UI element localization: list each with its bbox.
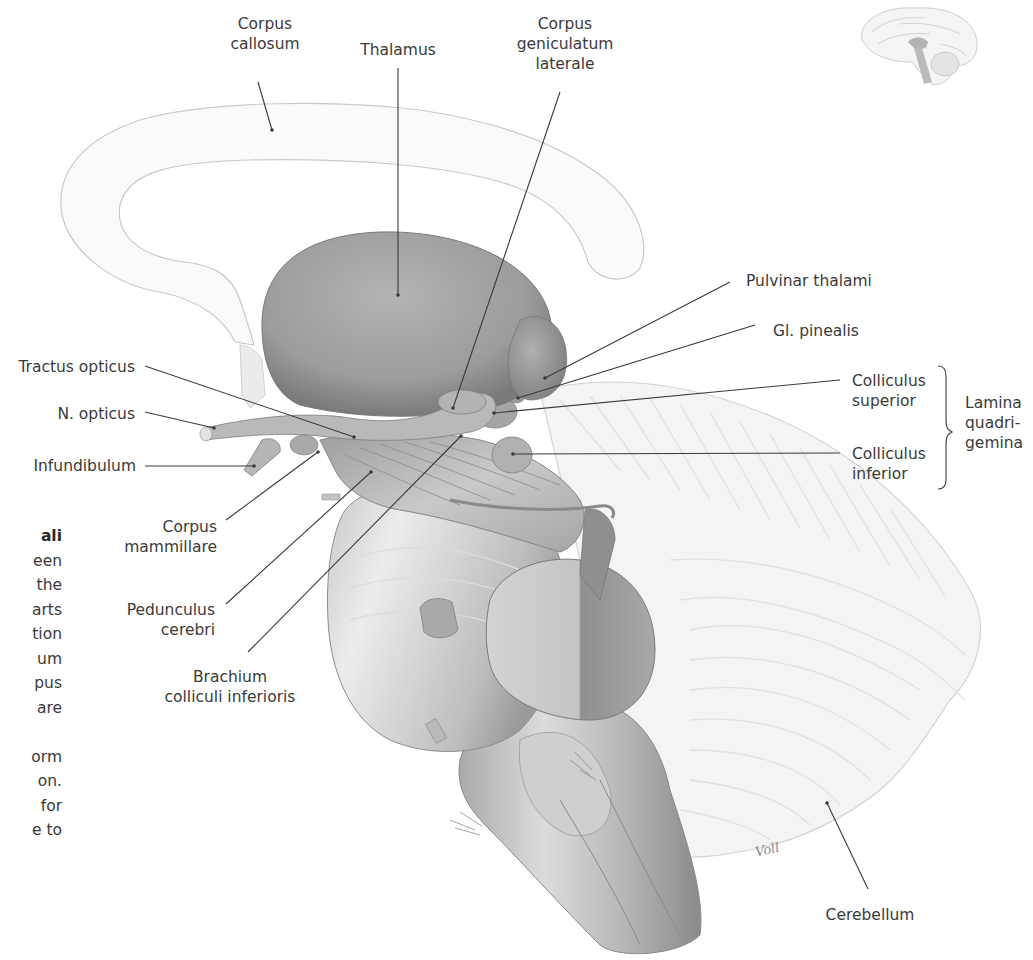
label-line: callosum: [215, 34, 315, 54]
caption-line: tion: [0, 622, 62, 647]
label-line: colliculi inferioris: [145, 687, 315, 707]
label-line: Pulvinar thalami: [746, 271, 872, 291]
pulvinar-shape: [508, 317, 566, 400]
label-infundibulum: Infundibulum: [0, 456, 136, 476]
label-lamina-quadrigemina: Lamina quadri- gemina: [965, 393, 1023, 453]
label-line: Tractus opticus: [0, 357, 135, 377]
caption-line: arts: [0, 598, 62, 623]
label-pedunculus-cerebri: Pedunculus cerebri: [100, 600, 215, 640]
label-line: Gl. pinealis: [773, 321, 859, 341]
caption-line: for: [0, 794, 62, 819]
cerebellar-peduncle-cut: [486, 559, 655, 720]
label-colliculus-inferior: Colliculus inferior: [852, 444, 926, 484]
label-line: laterale: [505, 54, 625, 74]
label-line: mammillare: [100, 537, 217, 557]
caption-line: pus: [0, 671, 62, 696]
label-line: Brachium: [145, 667, 315, 687]
caption-line: orm: [0, 745, 62, 770]
caption-line: are: [0, 696, 62, 721]
label-cerebellum: Cerebellum: [815, 905, 925, 925]
label-line: gemina: [965, 433, 1023, 453]
label-thalamus: Thalamus: [348, 40, 448, 60]
caption-line: e to: [0, 818, 62, 843]
label-line: geniculatum: [505, 34, 625, 54]
label-line: Infundibulum: [0, 456, 136, 476]
label-line: Corpus: [100, 517, 217, 537]
label-line: Corpus: [215, 14, 315, 34]
label-line: Thalamus: [348, 40, 448, 60]
caption-line: [0, 720, 62, 745]
label-line: quadri-: [965, 413, 1023, 433]
label-gl-pinealis: Gl. pinealis: [773, 321, 859, 341]
caption-line: ali: [0, 524, 62, 549]
caption-line: the: [0, 573, 62, 598]
label-pulvinar-thalami: Pulvinar thalami: [746, 271, 872, 291]
caption-line: on.: [0, 769, 62, 794]
label-corpus-geniculatum-laterale: Corpus geniculatum laterale: [505, 14, 625, 74]
caption-line: een: [0, 549, 62, 574]
label-line: Cerebellum: [815, 905, 925, 925]
brain-orientation-thumbnail: [862, 8, 977, 85]
side-caption-text: ali een the arts tion um pus are orm on.…: [0, 524, 62, 843]
label-line: inferior: [852, 464, 926, 484]
thalamus-shape: [262, 232, 552, 416]
label-line: Lamina: [965, 393, 1023, 413]
label-line: Pedunculus: [100, 600, 215, 620]
label-colliculus-superior: Colliculus superior: [852, 371, 926, 411]
label-line: cerebri: [100, 620, 215, 640]
label-tractus-opticus: Tractus opticus: [0, 357, 135, 377]
label-n-opticus: N. opticus: [0, 404, 135, 424]
label-corpus-mammillare: Corpus mammillare: [100, 517, 217, 557]
label-brachium-colliculi-inferioris: Brachium colliculi inferioris: [145, 667, 315, 707]
label-corpus-callosum: Corpus callosum: [215, 14, 315, 54]
label-line: Colliculus: [852, 444, 926, 464]
label-line: N. opticus: [0, 404, 135, 424]
lamina-quadrigemina-brace: [938, 366, 952, 489]
label-line: superior: [852, 391, 926, 411]
label-line: Colliculus: [852, 371, 926, 391]
caption-line: um: [0, 647, 62, 672]
label-line: Corpus: [505, 14, 625, 34]
